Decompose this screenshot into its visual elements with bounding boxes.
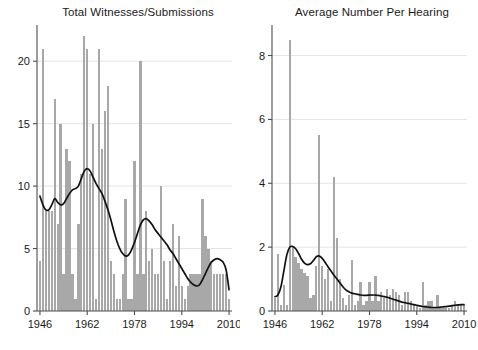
bar-1955	[65, 149, 67, 311]
bar-1949	[283, 285, 285, 311]
bar-1961	[318, 135, 320, 311]
bar-1982	[145, 211, 147, 311]
bar-1984	[151, 249, 153, 311]
bar-1952	[57, 224, 59, 311]
bar-1997	[424, 305, 426, 311]
bar-1966	[98, 49, 100, 311]
bar-1973	[119, 299, 121, 311]
bar-1979	[371, 301, 373, 311]
bar-1971	[113, 274, 115, 311]
panel-total-witnesses: Total Witnesses/Submissions 051015201946…	[0, 0, 240, 350]
bar-1946	[274, 298, 276, 311]
bar-1964	[92, 124, 94, 311]
bar-1999	[430, 301, 432, 311]
bar-1991	[407, 292, 409, 311]
x-tick-label-1994: 1994	[170, 318, 194, 330]
bar-1977	[365, 301, 367, 311]
bar-1973	[354, 305, 356, 311]
x-tick-label-1962: 1962	[75, 318, 99, 330]
plot-average-per-hearing: 0246819461962197819942010	[238, 0, 478, 350]
bar-1949	[48, 211, 50, 311]
x-tick-label-1946: 1946	[263, 318, 287, 330]
bar-1963	[89, 174, 91, 311]
x-tick-label-1962: 1962	[310, 318, 334, 330]
bar-1970	[110, 261, 112, 311]
bar-1946	[39, 261, 41, 311]
bar-1999	[195, 274, 197, 311]
bar-1996	[187, 286, 189, 311]
bar-1958	[309, 298, 311, 311]
bar-1989	[166, 299, 168, 311]
bar-1974	[122, 274, 124, 311]
bar-1988	[398, 295, 400, 311]
bar-1998	[192, 274, 194, 311]
bar-1950	[286, 305, 288, 311]
y-tick-label-2: 2	[259, 241, 265, 253]
x-tick-label-2010: 2010	[217, 318, 240, 330]
bar-1972	[351, 260, 353, 311]
bar-1994	[181, 286, 183, 311]
bar-1953	[294, 257, 296, 311]
x-tick-label-1994: 1994	[405, 318, 429, 330]
bar-1990	[169, 261, 171, 311]
y-tick-label-15: 15	[18, 118, 30, 130]
bar-1956	[68, 161, 70, 311]
bar-1986	[157, 274, 159, 311]
y-tick-label-10: 10	[18, 180, 30, 192]
y-tick-label-5: 5	[24, 243, 30, 255]
bar-1976	[127, 299, 129, 311]
plot-total-witnesses: 0510152019461962197819942010	[0, 0, 240, 350]
bar-2009	[460, 305, 462, 311]
bar-1948	[45, 211, 47, 311]
bar-1947	[42, 49, 44, 311]
bar-1983	[148, 261, 150, 311]
bar-1980	[374, 276, 376, 311]
bar-1969	[342, 298, 344, 311]
bar-2004	[210, 261, 212, 311]
bar-1985	[154, 274, 156, 311]
bar-1957	[306, 276, 308, 311]
x-tick-label-1946: 1946	[28, 318, 52, 330]
y-tick-label-0: 0	[259, 305, 265, 317]
bar-2003	[207, 249, 209, 311]
bar-2006	[216, 274, 218, 311]
bar-2010	[228, 299, 230, 311]
bar-2007	[219, 274, 221, 311]
bar-1978	[133, 161, 135, 311]
bar-1965	[95, 299, 97, 311]
bar-1980	[139, 61, 141, 311]
y-tick-label-4: 4	[259, 177, 265, 189]
bar-1962	[321, 266, 323, 311]
bar-2001	[201, 199, 203, 311]
bar-1954	[62, 274, 64, 311]
bar-1948	[280, 305, 282, 311]
bar-1993	[178, 236, 180, 311]
x-tick-label-1978: 1978	[122, 318, 146, 330]
bar-1987	[395, 292, 397, 311]
bar-1983	[383, 298, 385, 311]
bar-1952	[292, 247, 294, 311]
bar-1951	[289, 40, 291, 311]
bar-1960	[80, 174, 82, 311]
bar-1959	[312, 295, 314, 311]
panel-average-per-hearing: Average Number Per Hearing 0246819461962…	[238, 0, 478, 350]
bar-1950	[51, 211, 53, 311]
bar-1957	[71, 274, 73, 311]
bar-1968	[104, 111, 106, 311]
bar-1982	[380, 292, 382, 311]
bar-1978	[368, 282, 370, 311]
bar-2008	[222, 274, 224, 311]
bar-2010	[463, 305, 465, 311]
bar-1970	[345, 305, 347, 311]
bar-1992	[410, 301, 412, 311]
bar-1991	[172, 224, 174, 311]
bar-1997	[189, 274, 191, 311]
bar-1976	[362, 305, 364, 311]
y-tick-label-8: 8	[259, 50, 265, 62]
bar-1959	[77, 224, 79, 311]
figure-container: Total Witnesses/Submissions 051015201946…	[0, 0, 478, 350]
bar-1990	[404, 292, 406, 311]
bar-1963	[324, 279, 326, 311]
x-tick-label-2010: 2010	[452, 318, 476, 330]
bar-2005	[213, 274, 215, 311]
